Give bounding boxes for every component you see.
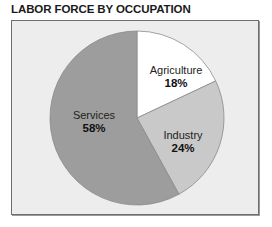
services-pct: 58% [82, 122, 105, 134]
industry-label: Industry [163, 129, 203, 141]
services-label: Services [73, 109, 116, 121]
agriculture-label: Agriculture [150, 64, 203, 76]
industry-pct: 24% [171, 142, 194, 154]
pie-chart: Agriculture 18% Industry 24% Services 58… [0, 0, 272, 227]
agriculture-pct: 18% [164, 77, 187, 89]
